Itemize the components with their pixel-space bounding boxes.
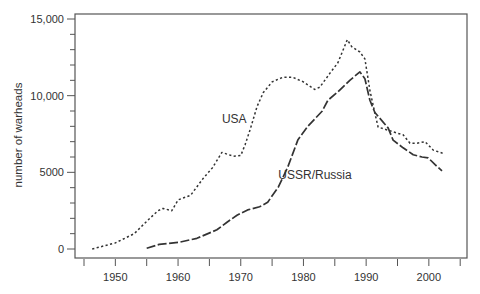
x-axis: 195019601970198019902000 <box>84 259 460 283</box>
y-axis-title: number of warheads <box>12 82 24 187</box>
series-labels: USAUSSR/Russia <box>222 112 352 183</box>
series-line-usa <box>92 40 442 249</box>
y-axis: 0500010,00015,000 <box>30 13 75 255</box>
series-label-ussr-russia: USSR/Russia <box>278 168 352 182</box>
series-label-usa: USA <box>222 112 247 126</box>
y-tick-label: 5000 <box>40 166 64 178</box>
series-lines <box>92 40 442 249</box>
x-tick-label: 1960 <box>166 271 190 283</box>
x-tick-label: 1990 <box>354 271 378 283</box>
plot-border <box>75 14 467 258</box>
x-tick-label: 2000 <box>417 271 441 283</box>
x-tick-label: 1950 <box>103 271 127 283</box>
y-tick-label: 15,000 <box>30 13 64 25</box>
plot-frame <box>75 14 467 258</box>
series-line-ussr-russia <box>147 72 442 248</box>
y-tick-label: 0 <box>58 243 64 255</box>
x-tick-label: 1980 <box>291 271 315 283</box>
x-tick-label: 1970 <box>229 271 253 283</box>
nuclear-warheads-chart: 0500010,00015,000 1950196019701980199020… <box>0 0 480 294</box>
y-tick-label: 10,000 <box>30 90 64 102</box>
